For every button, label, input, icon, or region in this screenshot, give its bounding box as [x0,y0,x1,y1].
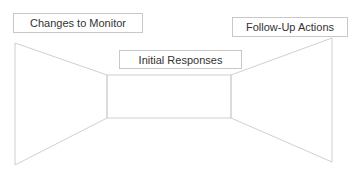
changes-to-monitor-label: Changes to Monitor [13,13,143,33]
follow-up-actions-text: Follow-Up Actions [246,21,334,33]
back-wall-rectangle [107,75,231,118]
right-wall-trapezoid [231,38,332,162]
initial-responses-text: Initial Responses [139,54,223,66]
follow-up-actions-label: Follow-Up Actions [232,17,348,37]
left-wall-trapezoid [15,43,107,165]
changes-to-monitor-text: Changes to Monitor [30,17,126,29]
initial-responses-label: Initial Responses [119,50,242,69]
